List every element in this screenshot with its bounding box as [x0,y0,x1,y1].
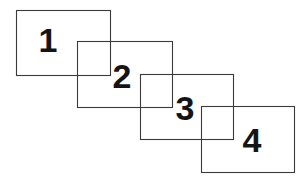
rectangle-number-label-2: 2 [113,57,132,95]
diagram-canvas: 1234 [0,0,307,182]
rectangle-outline-1[interactable] [17,11,111,76]
rectangle-number-label-1: 1 [39,21,58,59]
rectangle-number-label-4: 4 [243,121,262,159]
overlapping-rectangles-diagram: 1234 [0,0,307,182]
slide-1[interactable]: 1 [17,11,111,76]
rectangle-number-label-3: 3 [176,89,195,127]
